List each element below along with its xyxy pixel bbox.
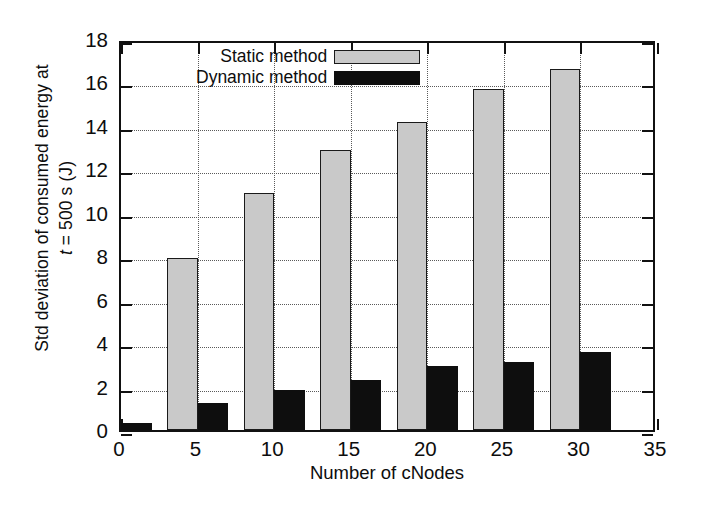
plot-inner — [121, 43, 653, 430]
x-tick-label: 10 — [242, 439, 302, 459]
y-axis-tick — [642, 347, 653, 349]
y-axis-tick — [121, 130, 132, 132]
x-axis-tick — [657, 43, 659, 54]
x-tick-label: 15 — [319, 439, 379, 459]
bar-dynamic — [351, 380, 382, 430]
x-tick-label: 0 — [89, 439, 149, 459]
y-tick-label: 18 — [68, 30, 108, 50]
x-tick-label: 30 — [548, 439, 608, 459]
chart-legend: Static methodDynamic method — [196, 46, 420, 88]
y-axis-tick — [121, 347, 132, 349]
bar-static — [473, 89, 504, 430]
y-axis-tick — [642, 260, 653, 262]
bar-static — [397, 122, 428, 430]
y-axis-tick — [121, 86, 132, 88]
bar-dynamic — [121, 423, 152, 430]
y-axis-tick — [642, 391, 653, 393]
bar-static — [167, 258, 198, 430]
chart-figure: Std deviation of consumed energy at t = … — [0, 0, 702, 506]
bar-dynamic — [274, 390, 305, 430]
y-tick-label: 10 — [68, 204, 108, 224]
legend-swatch-static — [334, 50, 420, 64]
y-tick-label: 6 — [68, 291, 108, 311]
bar-static — [244, 193, 275, 430]
gridline-vertical — [351, 43, 352, 430]
y-tick-label: 14 — [68, 117, 108, 137]
bar-static — [550, 69, 581, 430]
x-axis-title: Number of cNodes — [119, 462, 655, 484]
x-axis-tick — [657, 419, 659, 430]
y-axis-tick — [121, 391, 132, 393]
x-axis-tick — [580, 43, 582, 54]
x-tick-label: 5 — [166, 439, 226, 459]
x-tick-label: 35 — [625, 439, 685, 459]
y-tick-label: 0 — [68, 421, 108, 441]
y-axis-tick — [121, 260, 132, 262]
y-axis-tick — [642, 304, 653, 306]
bar-static — [320, 150, 351, 430]
y-axis-tick — [642, 86, 653, 88]
legend-label: Static method — [220, 46, 327, 67]
x-tick-label: 25 — [472, 439, 532, 459]
x-axis-tick — [504, 43, 506, 54]
y-axis-tick — [642, 434, 653, 436]
y-axis-tick — [121, 173, 132, 175]
legend-item: Static method — [196, 46, 420, 67]
plot-area — [119, 41, 655, 432]
y-axis-title-line1: Std deviation of consumed energy at — [32, 64, 52, 352]
y-axis-tick — [121, 434, 132, 436]
x-axis-tick — [427, 43, 429, 54]
bar-dynamic — [504, 362, 535, 430]
y-tick-label: 12 — [68, 160, 108, 180]
legend-label: Dynamic method — [196, 67, 327, 88]
gridline-vertical — [198, 43, 199, 430]
bar-dynamic — [427, 366, 458, 430]
y-tick-label: 8 — [68, 247, 108, 267]
bar-dynamic — [580, 352, 611, 430]
x-axis-tick — [121, 43, 123, 54]
y-tick-label: 16 — [68, 73, 108, 93]
legend-item: Dynamic method — [196, 67, 420, 88]
y-axis-tick — [642, 173, 653, 175]
y-axis-tick — [642, 43, 653, 45]
y-tick-label: 2 — [68, 378, 108, 398]
y-axis-tick — [121, 217, 132, 219]
y-tick-label: 4 — [68, 334, 108, 354]
legend-swatch-dynamic — [334, 71, 420, 85]
y-axis-tick — [121, 304, 132, 306]
gridline-vertical — [274, 43, 275, 430]
y-axis-tick — [642, 130, 653, 132]
x-tick-label: 20 — [395, 439, 455, 459]
y-axis-tick — [642, 217, 653, 219]
bar-dynamic — [198, 403, 229, 430]
